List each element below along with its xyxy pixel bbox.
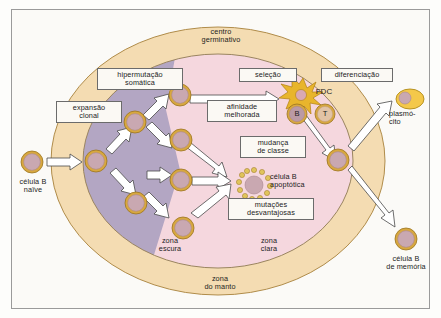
label-celula-b-memoria: célula B de memória [374,255,438,272]
label-dark-zone-line2: escura [146,245,194,253]
label-mudanca-de-classe-line2: de classe [245,147,301,155]
label-diferenciacao-line1: diferenciação [326,71,388,79]
label-light-zone: zona clara [247,237,291,254]
cell-selected [327,149,349,171]
label-celula-b-naive: célula B naïve [5,178,61,195]
label-germinal-center-line2: germinativo [186,36,256,44]
label-dark-zone: zona escura [146,237,194,254]
label-celula-b-apoptotica-line2: apoptótica [270,181,332,189]
label-afinidade-melhorada: afinidade melhorada [207,100,277,122]
label-selecao-line1: seleção [244,71,292,79]
cell-dark-upper [124,111,146,133]
label-mudanca-de-classe: mudança de classe [240,136,306,158]
cell-naive-b [21,151,43,173]
label-expansao-clonal-line2: clonal [61,112,117,120]
cell-dark-second-right [170,129,192,151]
label-celula-b-memoria-line2: de memória [374,263,438,271]
label-mutacoes-desvantajosas-line2: desvantajosas [233,209,309,217]
label-selecao: seleção [239,68,297,82]
label-fdc: FDC [312,88,336,96]
label-germinal-center: centro germinativo [186,28,256,45]
label-plasmocito-line2: cito [389,118,433,126]
cell-dark-lower [125,192,147,214]
label-mantle-zone-line2: do manto [187,283,253,291]
label-celula-b-naive-line2: naïve [5,186,61,194]
label-mutacoes-desvantajosas: mutações desvantajosas [228,198,314,220]
label-plasmocito: plasmó- cito [389,110,433,127]
cell-plasmocyte [396,89,424,109]
label-diferenciacao: diferenciação [321,68,393,82]
label-hipermutacao-somatica: hipermutação somática [97,68,183,90]
label-hipermutacao-somatica-line2: somática [102,79,178,87]
label-celula-b-apoptotica: célula B apoptótica [270,173,332,190]
label-afinidade-melhorada-line2: melhorada [212,111,272,119]
cell-dark-third-right [170,169,192,191]
label-b-cell-marker: B [292,110,302,118]
label-expansao-clonal: expansão clonal [56,101,122,123]
cell-dark-founder [85,150,107,172]
label-light-zone-line2: clara [247,245,291,253]
figure-canvas: centro germinativo zona do manto zona es… [0,0,441,318]
cell-memory-b [395,228,417,250]
label-mantle-zone: zona do manto [187,275,253,292]
label-t-cell-marker: T [320,110,330,118]
